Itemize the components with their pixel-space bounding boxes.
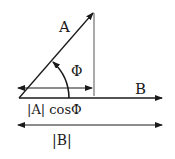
vector-a-label: A — [59, 20, 70, 35]
vector-a-arrow — [19, 13, 93, 98]
projection-label: |A| cosΦ — [27, 103, 82, 116]
vector-b-label: B — [135, 82, 146, 97]
angle-label: Φ — [71, 64, 82, 78]
angle-arc — [53, 62, 69, 98]
magnitude-b-label: |B| — [52, 133, 72, 147]
diagram-canvas — [0, 0, 175, 159]
vector-projection-diagram: A Φ B |A| cosΦ |B| — [0, 0, 175, 159]
